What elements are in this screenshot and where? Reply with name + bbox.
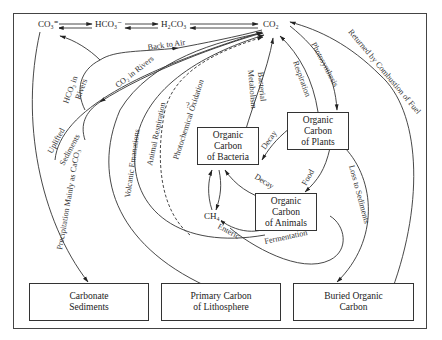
label-co2-in-rivers: CO₂ in Rivers	[114, 54, 156, 89]
node-bacteria: Organic Carbon of Bacteria	[197, 127, 259, 165]
label-question: ?	[186, 101, 190, 110]
node-hco3: HCO₃⁻	[94, 19, 123, 29]
node-animals: Organic Carbon of Animals	[255, 193, 317, 231]
node-buried-organic: Buried Organic Carbon	[293, 283, 414, 321]
label-combustion: Returned by Combustion of Fuel	[346, 28, 423, 117]
node-carbonate-sediments: Carbonate Sediments	[29, 283, 149, 321]
node-ch4: CH₄	[203, 211, 221, 221]
label-back-to-air: Back to Air	[147, 38, 186, 52]
node-primary-lithosphere: Primary Carbon of Lithosphere	[161, 283, 281, 321]
node-plants: Organic Carbon of Plants	[287, 112, 349, 150]
label-decay-plants: Decay	[259, 128, 279, 151]
label-volcanic: Volcanic Emanations	[123, 128, 142, 198]
node-h2co3: H₂CO₃	[160, 19, 187, 29]
label-food: Food	[300, 168, 316, 187]
label-loss-sediments: Loss to Sediments	[347, 164, 371, 224]
node-co3: CO₃⁼	[37, 19, 59, 29]
label-animal-respiration: Animal Respiration	[145, 102, 167, 167]
label-photosynthesis: Photosynthesis	[309, 41, 340, 89]
node-co2: CO₂	[262, 19, 280, 29]
label-decay-animals: Decay	[253, 172, 276, 191]
